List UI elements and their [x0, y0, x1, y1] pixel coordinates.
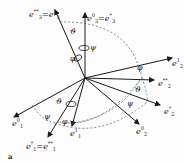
diagram-svg [0, 0, 184, 163]
label-e3-star-star: e**3=e13 [29, 9, 60, 20]
label-e2-star-star: e**2 [158, 78, 171, 89]
axis-e2-star [85, 78, 160, 105]
angle-phi-bottom: φ [62, 118, 68, 126]
angle-theta-bottom: ϑ [56, 98, 62, 106]
label-e1-zero: e01 [12, 118, 23, 129]
axis-lines [14, 10, 172, 137]
rotation-theta-marker [66, 102, 76, 107]
label-e2-one: e12 [172, 58, 183, 69]
axis-e2-star-star [85, 78, 154, 80]
euler-angles-diagram: e**3=e13 e03=e*3 e12 e**2 e*2 e02 e01 e*… [0, 0, 184, 163]
angle-psi-bottom: ψ [44, 113, 50, 121]
axis-e2-one [85, 58, 172, 78]
label-e1-one: e11 [70, 128, 81, 139]
label-e2-star: e*2 [164, 106, 174, 117]
label-e1-star: e*1=e**1 [26, 141, 56, 152]
angle-psi-top: ψ [90, 44, 96, 52]
rotation-psi-marker [79, 46, 89, 51]
axis-e3-star-star [55, 10, 85, 78]
label-e2-zero: e02 [136, 126, 147, 137]
panel-label: a [8, 152, 13, 161]
angle-phi-top: φ [70, 55, 76, 63]
angle-phi-right: φ [137, 64, 143, 72]
angle-psi-right: ψ [127, 100, 133, 108]
angle-theta-right: ϑ [135, 86, 141, 94]
label-e3-zero: e03=e*3 [87, 13, 115, 24]
angle-theta-top: ϑ [70, 28, 76, 36]
